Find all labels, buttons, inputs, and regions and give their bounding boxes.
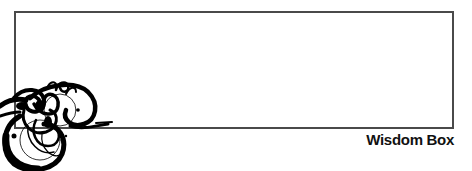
- calligraphic-swirl-icon: [0, 76, 115, 171]
- wisdom-box-graphic: Wisdom Box: [0, 0, 472, 171]
- wisdom-box-caption: Wisdom Box: [366, 131, 454, 149]
